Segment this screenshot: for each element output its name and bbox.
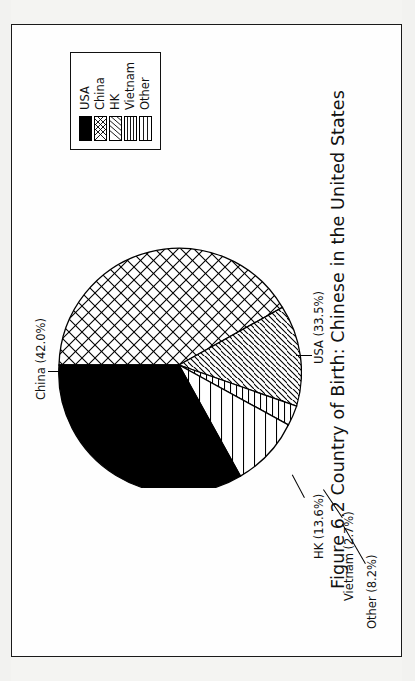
pie-svg [56, 242, 302, 488]
chart-legend: USA China [70, 52, 161, 150]
legend-swatch-china-crosshatch-icon [94, 116, 107, 141]
legend-label-china: China [94, 77, 107, 110]
pie-chart [56, 242, 302, 488]
legend-item-vietnam: Vietnam [123, 62, 138, 141]
label-china: China (42.0%) [34, 318, 48, 400]
rotated-figure-canvas: China (42.0%) HK (13.6%) Vietnam (2.7%) … [12, 23, 403, 656]
legend-item-china: China [93, 62, 108, 141]
legend-label-hk: HK [109, 94, 122, 110]
legend-item-hk: HK [108, 62, 123, 141]
leader-line-usa [296, 355, 312, 356]
scanned-page: China (42.0%) HK (13.6%) Vietnam (2.7%) … [0, 0, 415, 681]
legend-swatch-vietnam-horizontal-icon [124, 116, 137, 141]
figure-body: China (42.0%) HK (13.6%) Vietnam (2.7%) … [12, 23, 403, 656]
legend-label-other: Other [139, 77, 152, 110]
legend-item-usa: USA [78, 62, 93, 141]
figure-title: Figure 6.2 Country of Birth: Chinese in … [328, 23, 348, 656]
scan-margin-left [0, 0, 11, 681]
label-hk: HK (13.6%) [312, 494, 326, 559]
leader-line-china [48, 371, 62, 372]
legend-label-vietnam: Vietnam [124, 62, 137, 110]
legend-item-other: Other [138, 62, 153, 141]
label-other: Other (8.2%) [365, 555, 379, 630]
legend-label-usa: USA [79, 86, 92, 110]
scan-margin-bottom [0, 657, 415, 681]
scan-margin-top [0, 0, 415, 24]
legend-swatch-hk-diagonal-icon [109, 116, 122, 141]
label-usa: USA (33.5%) [312, 291, 326, 364]
legend-swatch-other-sparse-icon [139, 116, 152, 141]
pie-slices [59, 248, 302, 488]
legend-swatch-usa-solid-icon [79, 116, 92, 141]
scan-margin-right [402, 0, 415, 681]
